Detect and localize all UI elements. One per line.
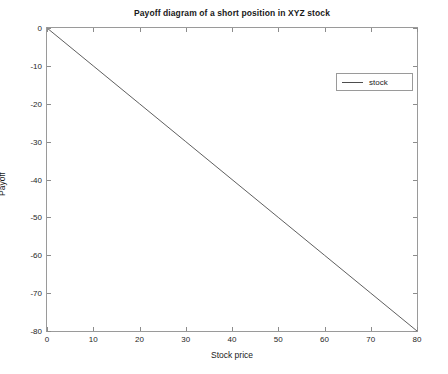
- figure-canvas: Payoff diagram of a short position in XY…: [0, 0, 448, 374]
- y-tick-label: -50: [30, 213, 42, 222]
- x-tick-label: 30: [181, 335, 190, 344]
- x-tick-mark: [140, 28, 141, 32]
- y-tick-label: -30: [30, 137, 42, 146]
- x-tick-label: 10: [89, 335, 98, 344]
- x-tick-mark: [325, 28, 326, 32]
- y-tick-mark: [47, 217, 51, 218]
- x-tick-label: 40: [228, 335, 237, 344]
- x-tick-mark: [325, 327, 326, 331]
- legend-box: stock: [336, 73, 413, 91]
- y-tick-mark: [413, 217, 417, 218]
- chart-title: Payoff diagram of a short position in XY…: [46, 8, 418, 18]
- x-tick-label: 80: [413, 335, 422, 344]
- x-tick-mark: [278, 28, 279, 32]
- y-tick-mark: [47, 180, 51, 181]
- y-tick-label: -40: [30, 175, 42, 184]
- y-axis-label: Payoff: [0, 172, 7, 196]
- y-tick-mark: [47, 28, 51, 29]
- y-tick-mark: [413, 66, 417, 67]
- y-tick-label: -10: [30, 61, 42, 70]
- x-tick-mark: [232, 327, 233, 331]
- y-tick-mark: [413, 180, 417, 181]
- x-tick-mark: [371, 327, 372, 331]
- y-tick-mark: [413, 104, 417, 105]
- x-tick-label: 60: [320, 335, 329, 344]
- x-tick-mark: [140, 327, 141, 331]
- x-tick-label: 20: [135, 335, 144, 344]
- x-tick-mark: [371, 28, 372, 32]
- y-tick-mark: [413, 331, 417, 332]
- x-tick-mark: [186, 28, 187, 32]
- x-tick-mark: [232, 28, 233, 32]
- x-axis-label: Stock price: [46, 350, 418, 360]
- x-tick-mark: [417, 327, 418, 331]
- x-tick-mark: [278, 327, 279, 331]
- x-tick-label: 0: [45, 335, 49, 344]
- y-tick-label: -80: [30, 327, 42, 336]
- x-tick-mark: [417, 28, 418, 32]
- x-tick-mark: [186, 327, 187, 331]
- legend-label-stock: stock: [369, 78, 388, 87]
- x-tick-mark: [93, 28, 94, 32]
- y-tick-mark: [47, 293, 51, 294]
- x-tick-label: 70: [366, 335, 375, 344]
- y-tick-mark: [413, 255, 417, 256]
- y-tick-mark: [47, 142, 51, 143]
- y-tick-mark: [47, 331, 51, 332]
- y-tick-label: -20: [30, 99, 42, 108]
- x-tick-label: 50: [274, 335, 283, 344]
- y-tick-mark: [413, 142, 417, 143]
- y-tick-label: -60: [30, 251, 42, 260]
- x-tick-mark: [93, 327, 94, 331]
- y-tick-mark: [47, 255, 51, 256]
- y-tick-label: 0: [38, 24, 42, 33]
- y-tick-label: -70: [30, 289, 42, 298]
- y-tick-mark: [413, 28, 417, 29]
- y-tick-mark: [47, 104, 51, 105]
- legend-line-sample-stock: [342, 82, 363, 83]
- y-tick-mark: [47, 66, 51, 67]
- y-tick-mark: [413, 293, 417, 294]
